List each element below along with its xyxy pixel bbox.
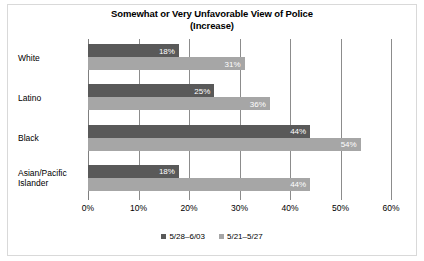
bar-group-asian-pacific-islander: 18% 44%: [88, 160, 391, 200]
chart-legend: 5/28–6/03 5/21–5/27: [0, 232, 424, 241]
bar-value-label: 18%: [159, 167, 175, 176]
x-axis-tick-60: 60%: [371, 203, 411, 213]
bar-black-5-21-5-27[interactable]: 54%: [88, 138, 361, 151]
bar-white-5-21-5-27[interactable]: 31%: [88, 57, 245, 70]
x-axis-tick-40: 40%: [270, 203, 310, 213]
bar-asian-pacific-islander-5-28-6-03[interactable]: 18%: [88, 165, 179, 178]
bar-group-white: 18% 31%: [88, 39, 391, 79]
bar-latino-5-21-5-27[interactable]: 36%: [88, 97, 270, 110]
legend-label: 5/28–6/03: [169, 232, 205, 241]
chart-title-line1: Somewhat or Very Unfavorable View of Pol…: [111, 8, 313, 19]
bar-value-label: 54%: [341, 140, 357, 149]
bar-value-label: 31%: [225, 59, 241, 68]
bar-value-label: 18%: [159, 46, 175, 55]
x-axis-tick-30: 30%: [220, 203, 260, 213]
bar-group-latino: 25% 36%: [88, 79, 391, 119]
bar-black-5-28-6-03[interactable]: 44%: [88, 125, 310, 138]
legend-item-5-21-5-27[interactable]: 5/21–5/27: [219, 232, 263, 241]
y-axis-label-latino: Latino: [18, 93, 84, 103]
x-axis-tick-10: 10%: [119, 203, 159, 213]
bar-white-5-28-6-03[interactable]: 18%: [88, 44, 179, 57]
x-axis-tick-20: 20%: [169, 203, 209, 213]
bar-latino-5-28-6-03[interactable]: 25%: [88, 84, 214, 97]
y-axis-label-white: White: [18, 53, 84, 63]
bar-value-label: 44%: [290, 127, 306, 136]
bar-value-label: 44%: [290, 180, 306, 189]
x-axis-tick-0: 0%: [68, 203, 108, 213]
bar-group-black: 44% 54%: [88, 120, 391, 160]
legend-swatch-icon: [219, 234, 224, 239]
plot-area: 18% 31% 25% 36% 44% 54%: [88, 39, 391, 200]
gridline-60: [391, 39, 392, 200]
y-axis-label-black: Black: [18, 133, 84, 143]
bar-value-label: 36%: [250, 99, 266, 108]
legend-item-5-28-6-03[interactable]: 5/28–6/03: [161, 232, 205, 241]
x-axis-tick-50: 50%: [321, 203, 361, 213]
chart-title: Somewhat or Very Unfavorable View of Pol…: [0, 8, 424, 31]
legend-label: 5/21–5/27: [227, 232, 263, 241]
chart-container: Somewhat or Very Unfavorable View of Pol…: [0, 0, 424, 261]
y-axis-label-asian-pacific-islander: Asian/Pacific Islander: [18, 168, 84, 188]
legend-swatch-icon: [161, 234, 166, 239]
chart-subtitle: (Increase): [0, 20, 424, 32]
bar-value-label: 25%: [194, 86, 210, 95]
bar-asian-pacific-islander-5-21-5-27[interactable]: 44%: [88, 178, 310, 191]
